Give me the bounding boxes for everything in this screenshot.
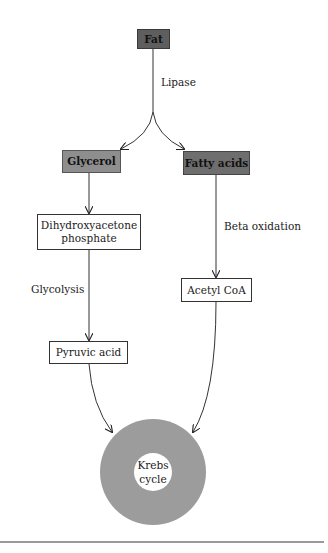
node-acetyl-coa-label: Acetyl CoA [187, 284, 245, 297]
node-krebs-cycle: Krebs cycle [128, 458, 178, 486]
node-acetyl-coa: Acetyl CoA [181, 278, 252, 302]
node-glycerol: Glycerol [62, 150, 121, 173]
bottom-rule [0, 541, 324, 543]
krebs-label-line1: Krebs [128, 458, 178, 472]
node-dihydroxyacetone-phosphate: Dihydroxyacetone phosphate [37, 214, 141, 250]
edge-label-beta-oxidation: Beta oxidation [224, 220, 301, 232]
node-pyruvic-acid: Pyruvic acid [49, 341, 128, 364]
edge-label-lipase: Lipase [161, 76, 196, 88]
node-fatty-acids: Fatty acids [183, 151, 250, 175]
node-dihydroxyacetone-label-line1: Dihydroxyacetone [41, 219, 137, 232]
node-fat-label: Fat [144, 33, 163, 46]
node-pyruvic-acid-label: Pyruvic acid [56, 346, 122, 359]
krebs-label-line2: cycle [128, 472, 178, 486]
edge-label-glycolysis: Glycolysis [31, 283, 84, 295]
node-fatty-acids-label: Fatty acids [185, 157, 249, 170]
node-dihydroxyacetone-label-line2: phosphate [61, 232, 116, 245]
node-fat: Fat [137, 29, 170, 49]
node-glycerol-label: Glycerol [67, 155, 116, 168]
